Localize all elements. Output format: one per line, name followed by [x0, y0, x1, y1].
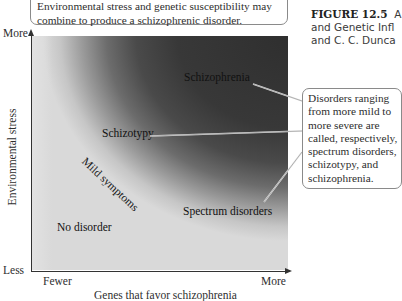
y-axis-line	[31, 34, 32, 271]
caption-text: Environmental stress and genetic suscept…	[37, 0, 272, 26]
y-axis-bottom-label: Less	[3, 264, 24, 276]
y-axis-arrow-icon	[28, 29, 34, 36]
callout-box: Disorders ranging from more mild to more…	[302, 88, 402, 189]
figure-title: FIGURE 12.5 A and Genetic Infl and C. C.…	[311, 8, 401, 47]
x-axis-arrow-icon	[285, 268, 292, 274]
y-axis-top-label: More	[3, 27, 28, 39]
figure-title-line3: and C. C. Dunca	[311, 34, 401, 47]
callout-line: schizophrenia.	[308, 172, 401, 185]
figure-title-line2: and Genetic Infl	[311, 21, 401, 34]
callout-line: Disorders ranging	[308, 92, 401, 105]
y-axis-title: Environmental stress	[6, 109, 18, 206]
callout-line: from more mild to	[308, 105, 401, 118]
region-label-schizophrenia: Schizophrenia	[184, 71, 250, 83]
region-label-no-disorder: No disorder	[57, 221, 112, 233]
x-axis-title: Genes that favor schizophrenia	[94, 289, 237, 301]
region-label-spectrum-disorders: Spectrum disorders	[183, 205, 272, 217]
x-axis-right-label: More	[261, 275, 286, 287]
callout-line: schizotypy, and	[308, 158, 401, 171]
region-label-schizotypy: Schizotypy	[102, 127, 154, 139]
figure-title-line1: A	[394, 8, 401, 20]
figure-number: FIGURE 12.5	[311, 8, 387, 20]
callout-line: more severe are	[308, 119, 401, 132]
caption-box: Environmental stress and genetic suscept…	[30, 0, 288, 25]
x-axis-line	[31, 271, 287, 272]
callout-line: spectrum disorders,	[308, 145, 401, 158]
callout-line: called, respectively,	[308, 132, 401, 145]
x-axis-left-label: Fewer	[43, 275, 72, 287]
